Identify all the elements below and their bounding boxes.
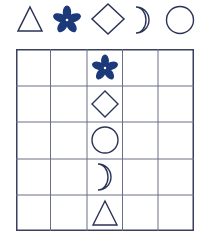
crescent-moon-icon [133, 5, 155, 35]
crescent-moon-icon [94, 162, 116, 192]
flower-icon [91, 54, 119, 82]
grid-cell-r4-c2[interactable] [87, 195, 123, 231]
circle-icon [90, 125, 120, 155]
diamond-icon [90, 89, 120, 119]
triangle-icon [16, 5, 44, 33]
circle-icon [165, 5, 195, 35]
flower-icon [52, 5, 82, 35]
grid-cell-r2-c2[interactable] [87, 122, 123, 158]
diamond-icon [90, 2, 126, 36]
triangle-icon [91, 199, 119, 227]
shape-legend [0, 0, 212, 40]
grid-cell-r3-c2[interactable] [87, 159, 123, 195]
grid-cell-r0-c2[interactable] [87, 50, 123, 86]
grid-cell-r1-c2[interactable] [87, 86, 123, 122]
puzzle-grid [16, 49, 194, 231]
